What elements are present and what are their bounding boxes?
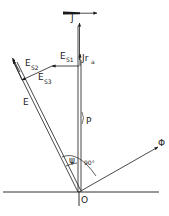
label-phi: Φ <box>158 138 165 148</box>
svg-text:S3: S3 <box>44 78 52 85</box>
label-origin: O <box>81 195 88 205</box>
label-j: J <box>70 13 74 23</box>
phasor-diagram: J E S1 Jr a E S2 E S3 E P ψ 90° Φ O <box>0 0 169 216</box>
label-es2: E S2 <box>25 58 39 71</box>
label-jra: Jr a <box>81 53 95 65</box>
p-brace <box>82 112 84 124</box>
j-vector <box>78 23 81 192</box>
svg-text:Jr: Jr <box>81 53 89 63</box>
svg-text:S2: S2 <box>31 64 39 71</box>
label-e: E <box>23 97 29 107</box>
svg-text:a: a <box>91 58 95 65</box>
label-p: P <box>86 116 92 126</box>
rotation-direction-arrow-icon <box>63 12 97 15</box>
label-es1: E S1 <box>60 51 74 63</box>
label-psi: ψ <box>69 155 75 165</box>
label-es3: E S3 <box>38 72 52 85</box>
svg-text:S1: S1 <box>66 56 74 63</box>
label-90-degrees: 90° <box>84 159 95 166</box>
